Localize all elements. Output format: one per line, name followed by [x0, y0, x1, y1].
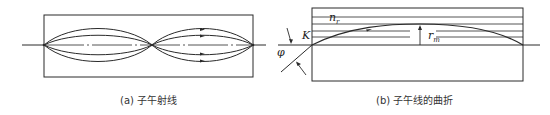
arrowhead-icon	[289, 39, 293, 44]
refractive-index-label: nr	[329, 11, 339, 26]
bent-ray	[312, 24, 523, 45]
figure: nr K φ rm (a) 子午射线 (b) 子午线的曲折	[0, 0, 550, 115]
caption-a: (a) 子午射线	[120, 92, 177, 107]
turning-radius-label: rm	[428, 29, 440, 44]
angle-label: φ	[277, 46, 285, 59]
panel-a-boundary	[44, 15, 253, 77]
arrowhead-icon	[296, 62, 301, 67]
panel-a-meridional-rays	[22, 15, 266, 77]
diagram-canvas	[0, 0, 550, 115]
arrowhead-icon	[418, 25, 422, 30]
ray-curve	[44, 45, 152, 55]
incident-ray	[281, 45, 312, 72]
caption-b: (b) 子午线的曲折	[376, 92, 453, 107]
ray-curve	[44, 45, 152, 62]
entry-point-label: K	[302, 29, 310, 42]
panel-b-meridional-bending	[278, 8, 540, 81]
ray-curve	[44, 35, 152, 45]
ray-curve	[44, 29, 152, 46]
